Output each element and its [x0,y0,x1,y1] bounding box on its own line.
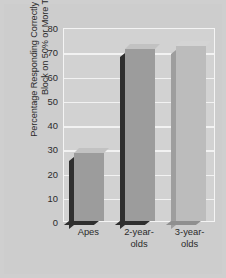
y-axis-tick-0: 0 [53,217,58,228]
y-axis-tick-30: 30 [48,144,58,155]
y-axis-tick-50: 50 [48,95,58,106]
bar-1-face [125,49,155,221]
chart-canvas: Percentage Responding Correctly to the W… [4,4,222,274]
y-axis-tick-20: 20 [48,168,58,179]
y-axis-tick-70: 70 [48,47,58,58]
bar-0-base [64,221,99,225]
chart-figure: Percentage Responding Correctly to the W… [0,0,226,278]
y-axis-tick-40: 40 [48,120,58,131]
bar-0 [74,153,104,221]
bar-1 [125,49,155,221]
plot-area [63,28,215,222]
y-axis-tick-80: 80 [48,23,58,34]
bar-0-face [74,153,104,221]
plot-inner [64,29,214,221]
bar-2-face [176,46,206,221]
y-axis-tick-labels: 01020304050607080 [38,28,58,222]
x-axis-tick-2: 3-year- olds [163,226,217,249]
bar-0-top [74,148,109,153]
bar-2-base [166,221,201,225]
y-axis-tick-10: 10 [48,192,58,203]
y-axis-tick-60: 60 [48,71,58,82]
x-axis-tick-1: 2-year- olds [112,226,166,249]
x-axis-tick-0: Apes [61,226,115,238]
bar-2 [176,46,206,221]
x-axis-tick-labels: Apes2-year- olds3-year- olds [63,226,215,266]
bar-1-base [115,221,150,225]
bar-1-top [125,44,160,49]
bar-2-top [176,41,211,46]
